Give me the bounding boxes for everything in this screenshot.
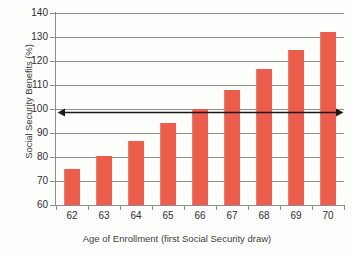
bar-65 [160, 123, 176, 205]
bar-68 [256, 69, 272, 205]
bar-64 [128, 141, 144, 205]
bar-70 [320, 32, 336, 205]
x-tick-label: 62 [56, 210, 88, 222]
y-tick-label: 100 [22, 104, 48, 114]
bar-62 [64, 169, 80, 205]
y-tick-label: 80 [22, 152, 48, 162]
y-tick-label: 140 [22, 8, 48, 18]
plot-area [56, 13, 344, 205]
bar-66 [192, 109, 208, 205]
gridline [56, 13, 344, 14]
y-tick-label: 90 [22, 128, 48, 138]
x-tick-mark [344, 205, 345, 210]
y-tick-label: 130 [22, 32, 48, 42]
x-tick-label: 67 [216, 210, 248, 222]
y-tick-label: 60 [22, 200, 48, 210]
x-tick-mark [280, 205, 281, 210]
bar-69 [288, 50, 304, 205]
x-tick-label: 65 [152, 210, 184, 222]
x-tick-mark [88, 205, 89, 210]
bar-67 [224, 90, 240, 205]
x-tick-label: 64 [120, 210, 152, 222]
y-tick-label: 120 [22, 56, 48, 66]
bar-63 [96, 156, 112, 205]
x-tick-mark [312, 205, 313, 210]
x-tick-label: 69 [280, 210, 312, 222]
x-tick-label: 66 [184, 210, 216, 222]
bar-chart-figure: Social Security Benefits (%) 14013012011… [0, 0, 354, 254]
x-tick-mark [120, 205, 121, 210]
x-tick-mark [152, 205, 153, 210]
x-tick-mark [184, 205, 185, 210]
x-tick-label: 70 [312, 210, 344, 222]
x-tick-label: 68 [248, 210, 280, 222]
x-tick-label: 63 [88, 210, 120, 222]
x-axis-line [56, 205, 345, 206]
y-tick-label: 110 [22, 80, 48, 90]
x-tick-mark [56, 205, 57, 210]
x-axis-title: Age of Enrollment (first Social Security… [0, 233, 354, 244]
x-tick-mark [248, 205, 249, 210]
x-tick-mark [216, 205, 217, 210]
y-tick-label: 70 [22, 176, 48, 186]
gridline [56, 37, 344, 38]
